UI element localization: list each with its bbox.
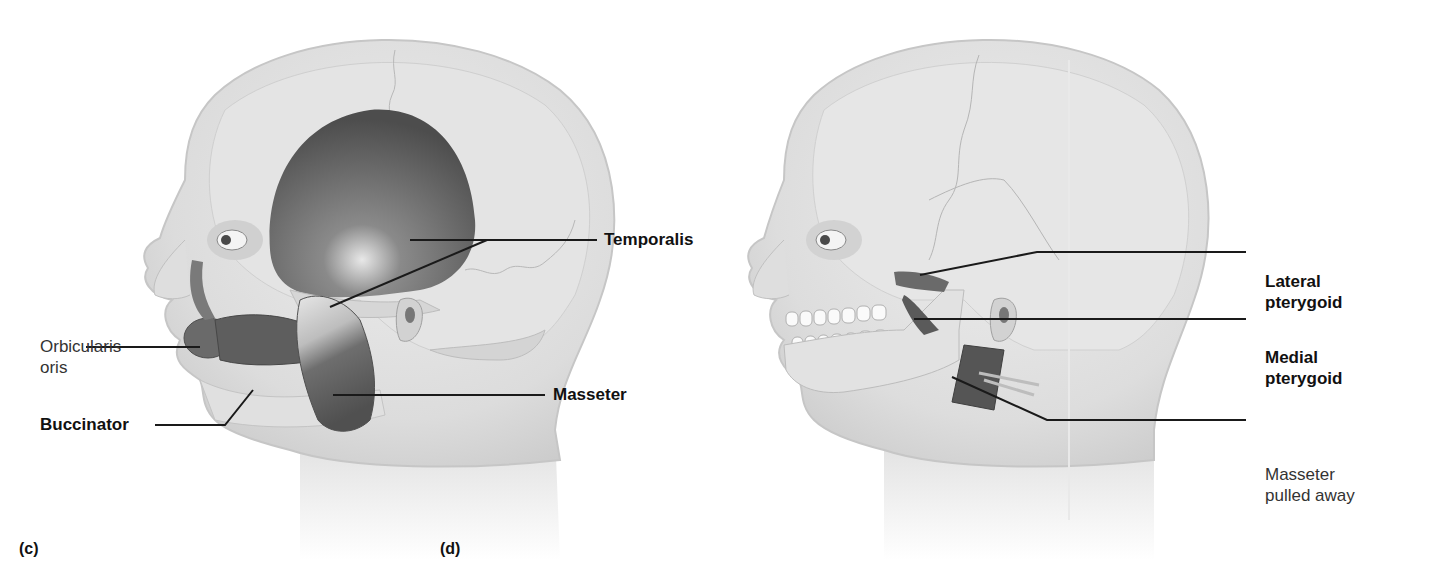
label-temporalis: Temporalis — [604, 230, 693, 250]
panel-letter-c: (c) — [19, 540, 39, 558]
panel-c-muscles-of-mastication: Temporalis Orbicularis oris Buccinator M… — [0, 0, 714, 588]
head-illustration-c — [0, 0, 714, 588]
panel-d-pterygoid-muscles: Lateral pterygoid Medial pterygoid Masse… — [714, 0, 1429, 588]
label-orbicularis-oris-line2: oris — [40, 358, 67, 378]
label-medial-pterygoid-line2: pterygoid — [1265, 369, 1342, 389]
label-masseter-pulled-away-line2: pulled away — [1265, 486, 1355, 506]
label-orbicularis-oris-line1: Orbicularis — [40, 337, 121, 357]
label-medial-pterygoid-line1: Medial — [1265, 348, 1318, 368]
panel-letter-d: (d) — [440, 540, 460, 558]
label-lateral-pterygoid-line2: pterygoid — [1265, 293, 1342, 313]
label-masseter-pulled-away-line1: Masseter — [1265, 465, 1335, 485]
label-masseter: Masseter — [553, 385, 627, 405]
label-buccinator: Buccinator — [40, 415, 129, 435]
label-lateral-pterygoid-line1: Lateral — [1265, 272, 1321, 292]
